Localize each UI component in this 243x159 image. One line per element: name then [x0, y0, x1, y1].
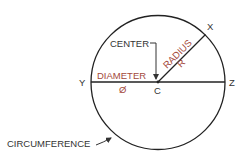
- label-center: CENTER: [110, 38, 149, 49]
- circle-diagram: CENTER DIAMETER Ø RADIUS R C X Y Z CIRCU…: [0, 0, 243, 159]
- label-diameter: DIAMETER: [97, 70, 146, 81]
- circumference-pointer-arrow: [96, 138, 111, 145]
- label-circumference: CIRCUMFERENCE: [7, 138, 90, 149]
- label-point-z: Z: [229, 77, 235, 88]
- center-pointer-arrow: [150, 43, 156, 79]
- label-radius-symbol: R: [175, 57, 188, 70]
- label-point-c: C: [154, 85, 161, 96]
- center-point: [157, 81, 160, 84]
- label-diameter-symbol: Ø: [119, 84, 127, 95]
- label-point-x: X: [207, 21, 214, 32]
- label-point-y: Y: [79, 77, 86, 88]
